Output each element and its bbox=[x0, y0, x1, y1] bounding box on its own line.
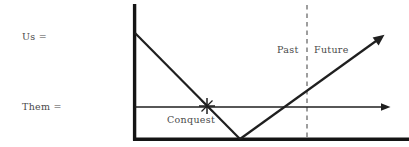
them-axis-label: Them = bbox=[22, 101, 62, 112]
them-baseline-arrowhead-icon bbox=[381, 103, 391, 110]
future-label: Future bbox=[314, 44, 349, 55]
conquest-label: Conquest bbox=[167, 114, 215, 125]
us-rising-arrowhead-icon bbox=[373, 35, 385, 46]
past-label: Past bbox=[277, 44, 299, 55]
figure-canvas: Us = Them = Conquest Past Future bbox=[0, 0, 409, 147]
us-rising-segment bbox=[240, 39, 380, 140]
us-axis-label: Us = bbox=[22, 31, 47, 42]
